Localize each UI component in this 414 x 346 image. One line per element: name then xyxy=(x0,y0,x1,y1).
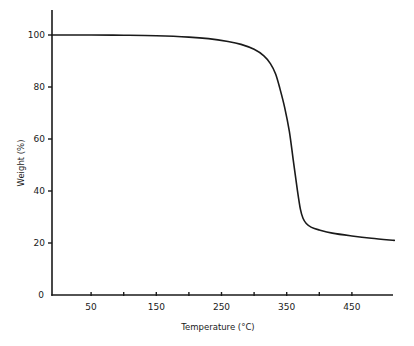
y-tick-label: 100 xyxy=(28,30,45,40)
y-tick-label: 0 xyxy=(38,290,44,300)
y-tick-label: 60 xyxy=(34,134,46,144)
x-tick-label: 450 xyxy=(343,302,360,312)
y-tick-label: 80 xyxy=(34,82,46,92)
x-tick-label: 250 xyxy=(213,302,230,312)
y-axis-label: Weight (%) xyxy=(16,139,26,186)
x-tick-label: 50 xyxy=(85,302,97,312)
x-tick-label: 350 xyxy=(278,302,295,312)
y-axis-ticks: 020406080100 xyxy=(28,30,52,300)
y-tick-label: 20 xyxy=(34,238,46,248)
x-axis-label: Temperature (°C) xyxy=(180,322,254,332)
tga-line-chart: 020406080100 50150250350450 Temperature … xyxy=(0,0,414,346)
weight-loss-curve xyxy=(52,35,394,240)
y-tick-label: 40 xyxy=(34,186,46,196)
x-tick-label: 150 xyxy=(148,302,165,312)
